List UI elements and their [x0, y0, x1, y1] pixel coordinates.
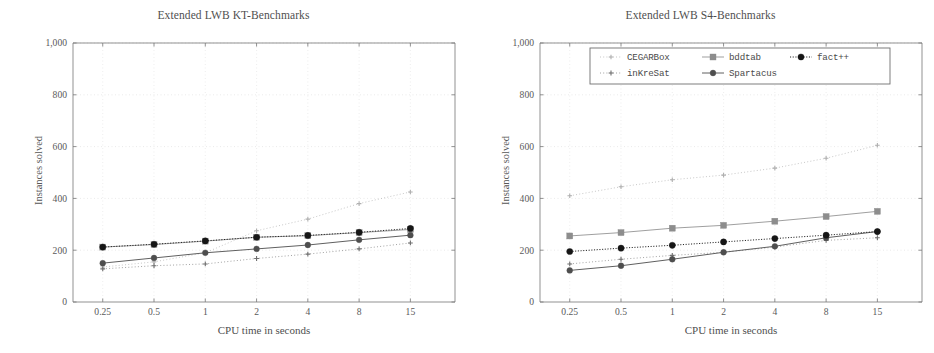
svg-text:0: 0 [529, 296, 534, 307]
svg-text:15: 15 [406, 306, 416, 317]
legend-label-cegarbox: CEGARBox [627, 52, 670, 63]
legend-label-factplusplus: fact++ [817, 52, 849, 63]
svg-text:1,000: 1,000 [45, 37, 67, 48]
svg-text:1: 1 [670, 306, 675, 317]
svg-text:1: 1 [203, 306, 208, 317]
series-bddtab [567, 208, 881, 239]
svg-text:0: 0 [62, 296, 67, 307]
panel-s4-benchmarks: Extended LWB S4-Benchmarks Instances sol… [467, 0, 934, 353]
legend-label-bddtab: bddtab [729, 52, 761, 63]
svg-text:400: 400 [53, 193, 68, 204]
panel-kt-benchmarks: Extended LWB KT-Benchmarks Instances sol… [0, 0, 467, 353]
svg-text:4: 4 [305, 306, 310, 317]
series-cegarbox [567, 143, 879, 198]
svg-text:0.25: 0.25 [94, 306, 111, 317]
plot-area-kt: 02004006008001,0000.250.5124815 [0, 0, 467, 353]
svg-text:2: 2 [254, 306, 259, 317]
legend-label-inkresat: inKreSat [627, 68, 670, 79]
svg-text:0.5: 0.5 [148, 306, 160, 317]
svg-text:0.25: 0.25 [561, 306, 578, 317]
svg-text:600: 600 [520, 141, 535, 152]
svg-text:1,000: 1,000 [512, 37, 534, 48]
svg-text:800: 800 [53, 89, 68, 100]
figure-two-panel-line-charts: Extended LWB KT-Benchmarks Instances sol… [0, 0, 934, 353]
series-spartacus [567, 229, 880, 274]
plot-area-s4: 02004006008001,0000.250.5124815CEGARBoxb… [467, 0, 934, 353]
svg-text:0.5: 0.5 [615, 306, 627, 317]
svg-text:8: 8 [824, 306, 829, 317]
svg-text:800: 800 [520, 89, 535, 100]
svg-text:15: 15 [873, 306, 883, 317]
chart-legend: CEGARBoxbddtabfact++inKreSatSpartacus [590, 48, 890, 84]
svg-text:8: 8 [357, 306, 362, 317]
legend-label-spartacus: Spartacus [729, 68, 777, 79]
svg-text:200: 200 [53, 245, 68, 256]
svg-text:200: 200 [520, 245, 535, 256]
svg-text:400: 400 [520, 193, 535, 204]
svg-text:600: 600 [53, 141, 68, 152]
svg-text:2: 2 [721, 306, 726, 317]
svg-text:4: 4 [772, 306, 777, 317]
